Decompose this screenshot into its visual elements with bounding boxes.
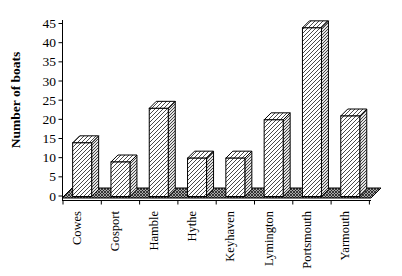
bar-front-face xyxy=(111,162,130,196)
x-category-label: Hamble xyxy=(147,211,161,251)
bar-lymington xyxy=(264,113,290,197)
x-category-label: Lymington xyxy=(262,210,276,266)
bar-front-face xyxy=(226,158,245,196)
bar-hamble xyxy=(149,101,175,196)
x-category-label: Portsmouth xyxy=(300,210,314,268)
bar-chart: 051015202530354045CowesGosportHambleHyth… xyxy=(0,0,402,276)
bar-side-face xyxy=(283,113,290,197)
y-tick-label: 0 xyxy=(49,189,56,204)
x-category-label: Keyhaven xyxy=(223,210,237,261)
bar-portsmouth xyxy=(302,21,328,197)
bar-front-face xyxy=(264,120,283,197)
bar-side-face xyxy=(207,151,214,196)
bar-front-face xyxy=(149,108,168,196)
y-tick-label: 20 xyxy=(43,112,57,127)
bar-gosport xyxy=(111,155,137,196)
x-category-label: Cowes xyxy=(70,211,84,245)
bar-front-face xyxy=(188,158,207,196)
bar-side-face xyxy=(245,151,252,196)
x-category-label: Hythe xyxy=(185,211,199,242)
bar-hythe xyxy=(188,151,214,196)
x-category-label: Yarmouth xyxy=(338,210,352,260)
y-tick-label: 10 xyxy=(43,150,57,165)
bar-keyhaven xyxy=(226,151,252,196)
bar-side-face xyxy=(168,101,175,196)
y-tick-label: 5 xyxy=(49,169,56,184)
x-category-label: Gosport xyxy=(108,210,122,251)
chart-canvas: 051015202530354045CowesGosportHambleHyth… xyxy=(0,0,402,276)
y-tick-label: 40 xyxy=(43,35,57,50)
bar-side-face xyxy=(321,21,328,197)
y-tick-label: 25 xyxy=(43,93,57,108)
bar-side-face xyxy=(360,109,367,196)
chart-floor xyxy=(62,188,381,198)
bar-side-face xyxy=(92,136,99,197)
bar-front-face xyxy=(341,116,360,196)
y-tick-label: 15 xyxy=(43,131,57,146)
y-tick-label: 30 xyxy=(43,74,57,89)
bar-yarmouth xyxy=(341,109,367,196)
bar-front-face xyxy=(302,28,321,197)
bar-front-face xyxy=(73,143,92,197)
bar-cowes xyxy=(73,136,99,197)
y-tick-label: 45 xyxy=(43,16,57,31)
y-axis-title: Number of boats xyxy=(8,52,23,149)
y-tick-label: 35 xyxy=(43,54,57,69)
